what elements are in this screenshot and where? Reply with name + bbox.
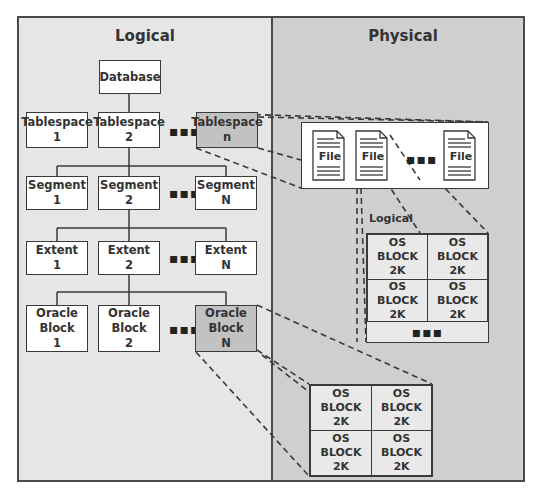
size-label: 2K (389, 264, 405, 278)
block-label: BLOCK (377, 250, 418, 264)
block-label: BLOCK (381, 446, 422, 460)
size-label: 2K (389, 308, 405, 322)
file-label: File (358, 150, 388, 163)
os-block-cell: OS BLOCK 2K (371, 385, 432, 431)
os-block-ellipsis: ▪▪▪ (412, 327, 443, 337)
os-label: OS (389, 236, 406, 250)
size-label: 2K (333, 460, 349, 474)
block-label: BLOCK (437, 294, 478, 308)
block-label: BLOCK (321, 401, 362, 415)
file-label: File (446, 150, 476, 163)
os-block-cell: OS BLOCK 2K (310, 430, 372, 476)
os-label: OS (449, 236, 466, 250)
size-label: 2K (393, 460, 409, 474)
os-block-group-2: OS BLOCK 2K OS BLOCK 2K OS BLOCK 2K OS B… (309, 384, 433, 477)
block-label: BLOCK (437, 250, 478, 264)
block-label: BLOCK (381, 401, 422, 415)
os-block-cell: OS BLOCK 2K (367, 234, 428, 280)
files-ellipsis: ▪▪▪ (406, 154, 437, 164)
block-label: BLOCK (377, 294, 418, 308)
os-block-cell: OS BLOCK 2K (427, 234, 488, 280)
os-block-cell: OS BLOCK 2K (427, 279, 488, 322)
os-block-more-row: ▪▪▪ (367, 321, 488, 342)
os-block-cell: OS BLOCK 2K (367, 279, 428, 322)
os-block-cell: OS BLOCK 2K (371, 430, 432, 476)
os-label: OS (393, 432, 410, 446)
os-block-group-1: OS BLOCK 2K OS BLOCK 2K OS BLOCK 2K OS B… (366, 233, 489, 343)
os-label: OS (449, 280, 466, 294)
size-label: 2K (393, 415, 409, 429)
size-label: 2K (449, 308, 465, 322)
os-block-cell: OS BLOCK 2K (310, 385, 372, 431)
os-label: OS (332, 432, 349, 446)
size-label: 2K (333, 415, 349, 429)
file-label: File (315, 150, 345, 163)
os-label: OS (389, 280, 406, 294)
os-label: OS (393, 387, 410, 401)
size-label: 2K (449, 264, 465, 278)
block-label: BLOCK (321, 446, 362, 460)
os-label: OS (332, 387, 349, 401)
logical-sublabel: Logical (369, 212, 413, 225)
